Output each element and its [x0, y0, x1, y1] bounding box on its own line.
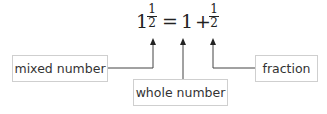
arrow-up-icon	[210, 38, 216, 45]
whole-number-label: whole number	[133, 79, 228, 106]
mixed-connector	[108, 43, 153, 68]
fraction-label: fraction	[255, 55, 318, 82]
fraction-connector	[213, 43, 255, 68]
arrow-up-icon	[180, 38, 186, 45]
arrow-up-icon	[150, 38, 156, 45]
mixed-number-label: mixed number	[12, 55, 108, 82]
